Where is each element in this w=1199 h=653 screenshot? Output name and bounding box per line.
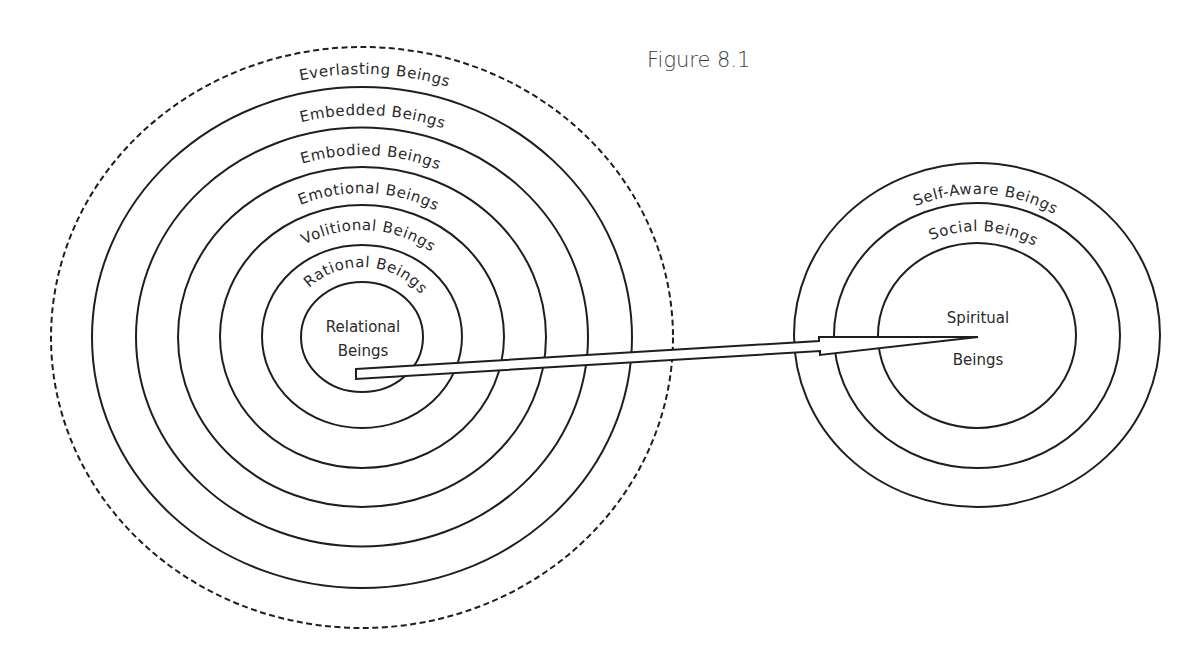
label-everlasting-beings: Everlasting Beings — [298, 60, 453, 91]
label-embodied-beings: Embodied Beings — [298, 141, 444, 173]
right-concentric-diagram: Self-Aware Beings Social Beings Spiritua… — [794, 163, 1160, 507]
label-emotional-beings: Emotional Beings — [295, 179, 442, 215]
label-relational-beings: Beings — [338, 342, 389, 360]
label-self-aware-beings: Self-Aware Beings — [911, 180, 1062, 218]
label-rational-beings: Rational Beings — [300, 253, 432, 298]
ring-everlasting-outer-dashed — [51, 47, 673, 628]
figure-diagram: Figure 8.1 Everlasting Beings Embedded B… — [0, 0, 1199, 653]
label-relational: Relational — [326, 318, 400, 336]
ring-embedded — [92, 87, 632, 588]
figure-title: Figure 8.1 — [647, 48, 750, 72]
left-concentric-diagram: Everlasting Beings Embedded Beings Embod… — [51, 47, 673, 628]
label-spiritual: Spiritual — [947, 309, 1009, 327]
ring-self-aware — [794, 163, 1160, 507]
label-social-beings: Social Beings — [926, 217, 1041, 250]
label-volitional-beings: Volitional Beings — [298, 216, 439, 256]
arrow-relational-to-spiritual — [356, 337, 978, 379]
label-spiritual-beings: Beings — [953, 351, 1004, 369]
ring-spiritual-core — [878, 243, 1076, 428]
ring-rational — [262, 245, 462, 428]
ring-emotional — [178, 167, 546, 507]
